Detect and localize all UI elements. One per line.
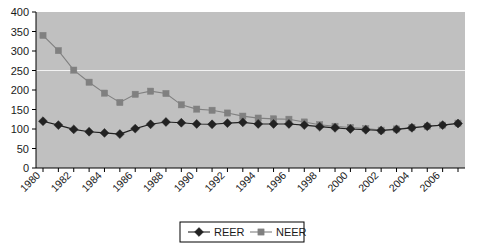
x-tick-label-group: 1980: [17, 169, 42, 194]
x-tick-label: 2000: [325, 169, 350, 194]
y-tick-label: 300: [11, 45, 29, 57]
legend-label-neer: NEER: [276, 226, 307, 238]
x-tick-label-group: 1994: [233, 169, 258, 194]
x-tick-label-group: 2000: [325, 169, 350, 194]
data-point-neer: [101, 90, 107, 96]
data-point-neer: [178, 102, 184, 108]
x-tick-label: 2002: [356, 169, 381, 194]
y-tick-label: 50: [17, 143, 29, 155]
y-tick-label: 200: [11, 84, 29, 96]
line-chart: 0501001502002503003504001980198219841986…: [0, 0, 484, 250]
x-tick-label-group: 1986: [110, 169, 135, 194]
x-tick-label: 1992: [202, 169, 227, 194]
legend: REERNEER: [180, 222, 307, 242]
x-tick-label: 1980: [17, 169, 42, 194]
x-tick-label-group: 1984: [79, 169, 104, 194]
data-point-neer: [147, 88, 153, 94]
data-point-neer: [209, 107, 215, 113]
data-point-neer: [40, 32, 46, 38]
x-tick-label-group: 1996: [263, 169, 288, 194]
y-tick-label: 250: [11, 65, 29, 77]
x-tick-label-group: 1998: [294, 169, 319, 194]
x-tick-label: 1988: [140, 169, 165, 194]
data-point-neer: [55, 48, 61, 54]
data-point-neer: [86, 79, 92, 85]
x-tick-label: 1990: [171, 169, 196, 194]
y-tick-label: 0: [23, 162, 29, 174]
x-tick-label: 2004: [386, 169, 411, 194]
x-tick-label-group: 1990: [171, 169, 196, 194]
x-tick-label: 1998: [294, 169, 319, 194]
data-point-neer: [132, 91, 138, 97]
data-point-neer: [194, 106, 200, 112]
x-tick-label-group: 1982: [48, 169, 73, 194]
y-tick-label: 350: [11, 26, 29, 38]
x-tick-label: 1994: [233, 169, 258, 194]
y-tick-label: 400: [11, 6, 29, 18]
x-tick-label: 1986: [110, 169, 135, 194]
y-tick-label: 150: [11, 104, 29, 116]
x-tick-label-group: 1988: [140, 169, 165, 194]
x-tick-label: 2006: [417, 169, 442, 194]
legend-label-reer: REER: [214, 226, 245, 238]
data-point-neer: [224, 110, 230, 116]
x-tick-label-group: 2006: [417, 169, 442, 194]
data-point-neer: [71, 67, 77, 73]
legend-marker-neer: [258, 229, 264, 235]
data-point-neer: [117, 99, 123, 105]
chart-container: 0501001502002503003504001980198219841986…: [0, 0, 484, 250]
x-tick-label: 1984: [79, 169, 104, 194]
x-tick-label: 1996: [263, 169, 288, 194]
x-tick-label-group: 1992: [202, 169, 227, 194]
y-tick-label: 100: [11, 123, 29, 135]
x-tick-label-group: 2002: [356, 169, 381, 194]
x-tick-label-group: 2004: [386, 169, 411, 194]
data-point-neer: [163, 90, 169, 96]
x-tick-label: 1982: [48, 169, 73, 194]
